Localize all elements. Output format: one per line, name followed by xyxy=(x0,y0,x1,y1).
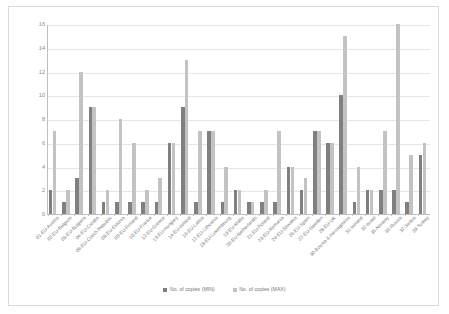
y-axis-tick-label: 8 xyxy=(42,117,45,123)
chart-page: 0246810121416 01-EU-Austria02-EU-Belgium… xyxy=(0,0,449,314)
bar-group xyxy=(339,25,352,214)
y-axis-tick-label: 16 xyxy=(39,22,45,28)
bar-max[interactable] xyxy=(251,202,255,214)
legend-swatch-icon xyxy=(163,288,167,292)
bars-layer xyxy=(48,25,430,214)
bar-group xyxy=(220,25,233,214)
bar-group xyxy=(246,25,259,214)
bar-group xyxy=(114,25,127,214)
bar-max[interactable] xyxy=(238,190,242,214)
bar-max[interactable] xyxy=(423,143,427,214)
bar-max[interactable] xyxy=(106,190,110,214)
bar-max[interactable] xyxy=(264,190,268,214)
bar-group xyxy=(405,25,418,214)
bar-group xyxy=(48,25,61,214)
x-axis: 01-EU-Austria02-EU-Belgium03-EU-Bulgaria… xyxy=(47,216,430,284)
bar-group xyxy=(273,25,286,214)
bar-group xyxy=(418,25,431,214)
bar-max[interactable] xyxy=(330,143,334,214)
bar-max[interactable] xyxy=(304,178,308,214)
bar-max[interactable] xyxy=(357,167,361,215)
bar-max[interactable] xyxy=(317,131,321,214)
bar-max[interactable] xyxy=(92,107,96,214)
bar-max[interactable] xyxy=(224,167,228,215)
bar-max[interactable] xyxy=(66,190,70,214)
bar-max[interactable] xyxy=(145,190,149,214)
bar-group xyxy=(286,25,299,214)
bar-group xyxy=(101,25,114,214)
y-axis-tick-label: 14 xyxy=(39,46,45,52)
bar-group xyxy=(312,25,325,214)
legend-label: No. of copies (MIN) xyxy=(170,287,215,292)
bar-group xyxy=(127,25,140,214)
bar-max[interactable] xyxy=(370,190,374,214)
legend-label: No. of copies (MAX) xyxy=(239,287,285,292)
bar-group xyxy=(259,25,272,214)
plot-area xyxy=(47,25,430,215)
bar-group xyxy=(140,25,153,214)
y-axis-tick-label: 2 xyxy=(42,188,45,194)
bar-max[interactable] xyxy=(185,60,189,214)
bar-max[interactable] xyxy=(211,131,215,214)
chart-frame: 0246810121416 01-EU-Austria02-EU-Belgium… xyxy=(8,6,439,306)
bar-group xyxy=(352,25,365,214)
bar-group xyxy=(206,25,219,214)
bar-max[interactable] xyxy=(409,155,413,214)
bar-max[interactable] xyxy=(158,178,162,214)
y-axis-tick-label: 0 xyxy=(42,212,45,218)
bar-group xyxy=(154,25,167,214)
bar-group xyxy=(180,25,193,214)
bar-max[interactable] xyxy=(119,119,123,214)
bar-max[interactable] xyxy=(396,24,400,214)
legend-item[interactable]: No. of copies (MAX) xyxy=(233,287,286,292)
bar-max[interactable] xyxy=(53,131,57,214)
bar-max[interactable] xyxy=(79,72,83,215)
y-axis-tick-label: 10 xyxy=(39,93,45,99)
y-axis-tick-label: 4 xyxy=(42,165,45,171)
bar-max[interactable] xyxy=(291,167,295,215)
legend-item[interactable]: No. of copies (MIN) xyxy=(163,287,214,292)
bar-group xyxy=(391,25,404,214)
bar-group xyxy=(365,25,378,214)
bar-group xyxy=(233,25,246,214)
bar-group xyxy=(325,25,338,214)
legend-swatch-icon xyxy=(233,288,237,292)
bar-group xyxy=(88,25,101,214)
bar-group xyxy=(193,25,206,214)
bar-group xyxy=(378,25,391,214)
y-axis-tick-label: 6 xyxy=(42,141,45,147)
bar-max[interactable] xyxy=(277,131,281,214)
bar-group xyxy=(74,25,87,214)
bar-group xyxy=(61,25,74,214)
bar-max[interactable] xyxy=(383,131,387,214)
bar-max[interactable] xyxy=(172,143,176,214)
bar-max[interactable] xyxy=(343,36,347,214)
chart-legend: No. of copies (MIN)No. of copies (MAX) xyxy=(9,287,440,292)
bar-group xyxy=(167,25,180,214)
bar-max[interactable] xyxy=(132,143,136,214)
y-axis-tick-label: 12 xyxy=(39,70,45,76)
y-axis: 0246810121416 xyxy=(23,25,45,215)
bar-max[interactable] xyxy=(198,131,202,214)
bar-group xyxy=(299,25,312,214)
